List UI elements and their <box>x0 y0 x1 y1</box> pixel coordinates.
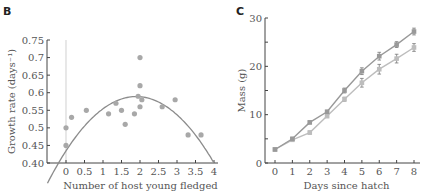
x-tick-label-b: 4 <box>211 166 217 177</box>
data-point <box>69 115 74 120</box>
panel-b: B 0.400.450.50.550.60.650.70.7500.511.52… <box>3 5 218 191</box>
data-point <box>173 97 178 102</box>
panel-c: C 0102030012345678 Days since hatch Mass… <box>236 5 420 191</box>
data-point <box>160 104 165 109</box>
data-point <box>63 125 68 130</box>
y-tick-label-c: 0 <box>256 158 262 169</box>
data-marker <box>290 137 295 142</box>
x-tick-label-b: 1 <box>100 166 106 177</box>
y-tick-label-b: 0.6 <box>28 87 44 98</box>
x-tick-label-b: 2 <box>137 166 143 177</box>
data-marker <box>325 109 330 114</box>
y-tick-label-b: 0.40 <box>22 158 44 169</box>
x-tick-label-c: 1 <box>289 166 295 177</box>
x-tick-label-b: 3.5 <box>188 166 204 177</box>
data-point <box>113 101 118 106</box>
y-tick-label-c: 20 <box>249 61 262 72</box>
data-marker <box>342 97 347 102</box>
y-tick-label-b: 0.45 <box>22 140 44 151</box>
data-marker <box>412 45 417 50</box>
data-point <box>186 132 191 137</box>
data-point <box>137 104 142 109</box>
series-lower <box>273 44 417 152</box>
series-upper <box>273 28 417 152</box>
y-tick-label-c: 30 <box>249 13 262 24</box>
data-point <box>137 55 142 60</box>
axes-b: 0.400.450.50.550.60.650.70.7500.511.522.… <box>22 35 218 178</box>
panel-label-c: C <box>236 5 244 18</box>
y-axis-label-c: Mass (g) <box>236 68 247 112</box>
x-tick-label-c: 8 <box>411 166 417 177</box>
x-tick-label-b: 1.5 <box>114 166 130 177</box>
data-point <box>106 111 111 116</box>
data-marker <box>412 29 417 34</box>
y-tick-label-b: 0.55 <box>22 105 44 116</box>
data-marker <box>394 56 399 61</box>
x-tick-label-b: 2.5 <box>151 166 167 177</box>
x-tick-label-b: 3 <box>174 166 180 177</box>
data-point <box>63 143 68 148</box>
x-tick-label-c: 7 <box>393 166 399 177</box>
scatter-points <box>63 55 203 148</box>
data-point <box>132 111 137 116</box>
data-point <box>137 83 142 88</box>
y-axis-label-b: Growth rate (days⁻¹) <box>6 49 17 154</box>
x-tick-label-c: 0 <box>272 166 278 177</box>
y-tick-label-b: 0.5 <box>28 122 44 133</box>
data-marker <box>360 80 365 85</box>
x-tick-label-b: 0.5 <box>77 166 93 177</box>
x-tick-label-c: 2 <box>307 166 313 177</box>
x-tick-label-c: 6 <box>376 166 382 177</box>
x-tick-label-c: 3 <box>324 166 330 177</box>
series-group <box>273 28 417 152</box>
axes-c: 0102030012345678 <box>249 13 420 178</box>
y-tick-label-c: 10 <box>249 109 262 120</box>
data-marker <box>394 42 399 47</box>
data-marker <box>273 147 278 152</box>
data-point <box>139 97 144 102</box>
data-marker <box>325 114 330 119</box>
data-point <box>84 108 89 113</box>
data-marker <box>377 67 382 72</box>
data-point <box>198 132 203 137</box>
x-axis-label-b: Number of host young fledged <box>63 180 218 191</box>
data-marker <box>360 69 365 74</box>
x-tick-label-b: 0 <box>63 166 69 177</box>
y-tick-label-b: 0.75 <box>22 35 44 46</box>
data-point <box>119 108 124 113</box>
data-point <box>123 122 128 127</box>
y-tick-label-b: 0.65 <box>22 70 44 81</box>
y-tick-label-b: 0.7 <box>28 52 44 63</box>
x-tick-label-c: 4 <box>341 166 347 177</box>
panel-label-b: B <box>3 5 11 18</box>
data-marker <box>377 54 382 59</box>
figure: B 0.400.450.50.550.60.650.70.7500.511.52… <box>0 0 423 194</box>
x-tick-label-c: 5 <box>359 166 365 177</box>
x-axis-label-c: Days since hatch <box>304 180 390 191</box>
data-marker <box>342 88 347 93</box>
data-marker <box>307 130 312 135</box>
data-marker <box>307 120 312 125</box>
